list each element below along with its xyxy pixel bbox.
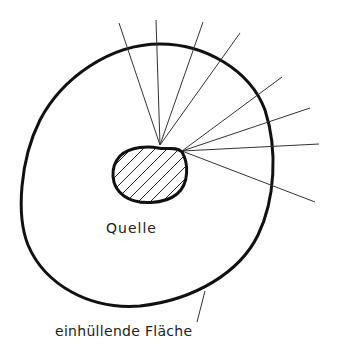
source-blob — [100, 130, 200, 210]
source-label: Quelle — [106, 220, 157, 236]
ray-3 — [160, 22, 203, 145]
enclosing-surface-diagram: Quelle einhüllende Fläche — [0, 0, 338, 351]
ray-6 — [182, 108, 310, 151]
enclosing-surface-curve — [21, 44, 273, 306]
enclosing-surface-label: einhüllende Fläche — [55, 323, 192, 339]
ray-2 — [156, 20, 160, 145]
ray-7 — [182, 144, 319, 151]
surface-leader-line — [197, 291, 205, 322]
ray-8 — [182, 151, 315, 202]
radiation-rays — [119, 20, 319, 202]
ray-1 — [119, 23, 160, 145]
